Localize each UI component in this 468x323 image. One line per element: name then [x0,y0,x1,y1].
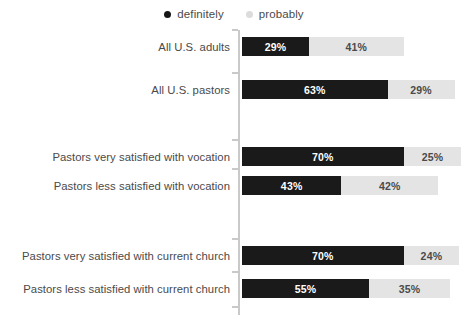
bar-segment-value: 55% [295,283,317,295]
bar-segment-probably: 24% [404,246,459,265]
bar-row-label: Pastors very satisfied with current chur… [0,250,230,262]
bar-segment-probably: 29% [388,80,455,99]
bar-segment-value: 70% [312,151,334,163]
bar-segment-probably: 42% [341,176,438,195]
bar-segment-value: 42% [379,180,401,192]
bar-row-label: Pastors less satisfied with current chur… [0,283,230,295]
bar-row-label: All U.S. pastors [0,84,230,96]
bar-row: Pastors less satisfied with current chur… [0,279,468,298]
bar-row: Pastors very satisfied with vocation70%2… [0,147,468,166]
legend-dot-icon-probably [246,11,253,18]
legend-item-definitely: definitely [164,8,223,20]
bar-segment-definitely: 70% [242,246,404,265]
bar-segment-definitely: 70% [242,147,404,166]
legend-item-probably: probably [246,8,304,20]
bar-row: Pastors very satisfied with current chur… [0,246,468,265]
bar-segment-definitely: 43% [242,176,341,195]
bar-segment-definitely: 55% [242,279,369,298]
bar-segment-probably: 25% [404,147,462,166]
bar-segment-definitely: 63% [242,80,388,99]
plot-area: All U.S. adults29%41%All U.S. pastors63%… [0,26,468,318]
bar-row-label: Pastors less satisfied with vocation [0,180,230,192]
axis-tick [232,72,238,74]
bar-segment-value: 43% [281,180,303,192]
bar-row-segments: 63%29% [242,80,455,99]
bar-segment-definitely: 29% [242,37,309,56]
bar-segment-value: 41% [346,41,368,53]
axis-tick [232,139,238,141]
legend-label-probably: probably [259,8,304,20]
bar-segment-probably: 35% [369,279,450,298]
bar-segment-probably: 41% [309,37,404,56]
bar-segment-value: 35% [399,283,421,295]
bar-row-segments: 70%25% [242,147,461,166]
y-axis-line [238,30,240,315]
bar-segment-value: 70% [312,250,334,262]
bar-row: Pastors less satisfied with vocation43%4… [0,176,468,195]
stacked-bar-chart: definitely probably All U.S. adults29%41… [0,0,468,323]
axis-tick [232,306,238,308]
bar-segment-value: 25% [422,151,444,163]
bar-segment-value: 63% [304,84,326,96]
bar-row: All U.S. pastors63%29% [0,80,468,99]
bar-row: All U.S. adults29%41% [0,37,468,56]
bar-row-label: Pastors very satisfied with vocation [0,151,230,163]
legend-dot-icon-definitely [164,11,171,18]
bar-segment-value: 29% [410,84,432,96]
axis-tick [232,29,238,31]
bar-row-segments: 29%41% [242,37,404,56]
axis-tick [232,271,238,273]
bar-segment-value: 29% [265,41,287,53]
legend-label-definitely: definitely [177,8,223,20]
axis-tick [232,168,238,170]
chart-legend: definitely probably [0,8,468,20]
bar-row-segments: 55%35% [242,279,450,298]
bar-row-segments: 43%42% [242,176,438,195]
bar-segment-value: 24% [421,250,443,262]
bar-row-segments: 70%24% [242,246,459,265]
bar-row-label: All U.S. adults [0,41,230,53]
axis-tick [232,238,238,240]
